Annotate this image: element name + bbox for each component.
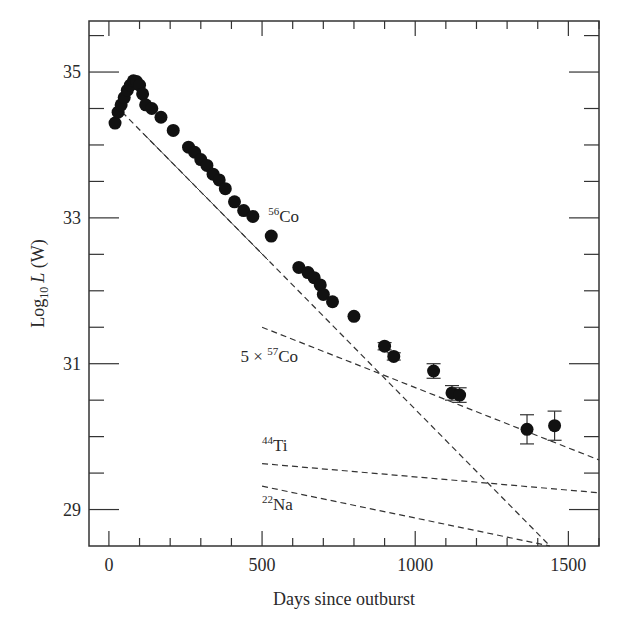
y-tick-label: 35	[63, 62, 81, 82]
data-point	[154, 111, 167, 124]
decay-line-44ti	[262, 464, 599, 493]
error-bar-points	[378, 340, 562, 444]
y-axis-title: Log10L (W)	[28, 239, 51, 328]
fit-line	[143, 133, 269, 260]
error-bar-point	[548, 411, 562, 440]
error-bar-point	[520, 415, 534, 444]
luminosity-chart: 05001000150029313335 56Co5 × 57Co44Ti22N…	[0, 0, 624, 630]
isotope-label-44ti: 44Ti	[262, 434, 288, 455]
y-axis-title-var: L	[28, 273, 48, 284]
error-bar-point	[387, 350, 401, 363]
y-axis-title-prefix: Log	[28, 299, 48, 328]
decay-line-22na	[262, 486, 550, 546]
x-tick-label: 1500	[550, 555, 586, 575]
data-point	[219, 182, 232, 195]
data-point	[347, 310, 360, 323]
data-point	[326, 295, 339, 308]
isotope-label-56co: 56Co	[268, 205, 299, 226]
y-tick-label: 31	[63, 354, 81, 374]
isotope-label-57co: 5 × 57Co	[241, 345, 298, 366]
fit-line-56co	[143, 133, 269, 260]
data-point	[109, 117, 122, 130]
x-axis-title: Days since outburst	[273, 589, 415, 609]
plot-frame	[89, 21, 599, 546]
y-tick-label: 33	[63, 208, 81, 228]
axis-tick-labels: 05001000150029313335	[63, 62, 586, 575]
y-axis-title-sub: 10	[37, 287, 51, 299]
data-points	[109, 74, 361, 323]
error-bar-point	[378, 340, 392, 353]
data-point	[167, 124, 180, 137]
x-tick-label: 500	[249, 555, 276, 575]
x-tick-label: 0	[104, 555, 113, 575]
data-point	[136, 87, 149, 100]
data-point	[265, 230, 278, 243]
model-decay-lines	[115, 105, 599, 546]
isotope-labels: 56Co5 × 57Co44Ti22Na	[241, 205, 299, 514]
y-axis-title-unit: (W)	[28, 239, 49, 272]
error-bar-point	[427, 364, 441, 379]
y-tick-label: 29	[63, 500, 81, 520]
axis-ticks	[89, 21, 599, 546]
data-point	[246, 210, 259, 223]
isotope-label-22na: 22Na	[262, 493, 293, 514]
x-tick-label: 1000	[397, 555, 433, 575]
